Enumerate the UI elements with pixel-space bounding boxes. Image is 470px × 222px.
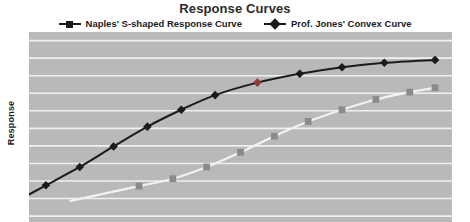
- legend-item-label: Prof. Jones' Convex Curve: [291, 18, 412, 29]
- data-point-marker: [372, 96, 379, 103]
- page-title: Response Curves: [0, 1, 470, 16]
- data-point-marker: [42, 181, 51, 190]
- square-marker-icon: [59, 19, 81, 28]
- data-point-marker: [211, 91, 220, 100]
- series-naples: [71, 84, 439, 201]
- y-axis-label: Response: [6, 93, 16, 153]
- chart-screenshot: Response Curves Naples' S-shaped Respons…: [0, 0, 470, 222]
- data-point-marker: [136, 183, 143, 190]
- data-point-marker: [177, 105, 186, 114]
- series-line: [29, 185, 46, 218]
- legend-item-label: Naples' S-shaped Response Curve: [86, 18, 242, 29]
- data-point-marker: [109, 142, 118, 151]
- legend-item-naples[interactable]: Naples' S-shaped Response Curve: [59, 18, 242, 29]
- data-point-marker: [203, 164, 210, 171]
- data-point-marker: [406, 89, 413, 96]
- data-point-marker: [431, 56, 440, 65]
- series-line: [139, 88, 435, 186]
- data-point-marker: [253, 78, 262, 87]
- plot-area: [29, 32, 452, 222]
- data-point-marker: [432, 84, 439, 91]
- data-point-marker: [237, 149, 244, 156]
- data-point-marker: [271, 133, 278, 140]
- data-point-marker: [295, 70, 304, 79]
- data-point-marker: [169, 175, 176, 182]
- series-line: [46, 60, 435, 185]
- data-point-marker: [305, 118, 312, 125]
- diamond-marker-icon: [264, 19, 286, 28]
- series-jones: [29, 56, 439, 219]
- data-point-marker: [338, 63, 347, 72]
- legend-item-jones[interactable]: Prof. Jones' Convex Curve: [264, 18, 412, 29]
- plot-canvas: [29, 32, 452, 222]
- data-point-marker: [143, 122, 152, 131]
- data-point-marker: [380, 59, 389, 68]
- chart-legend: Naples' S-shaped Response Curve Prof. Jo…: [0, 18, 470, 29]
- data-point-marker: [339, 106, 346, 113]
